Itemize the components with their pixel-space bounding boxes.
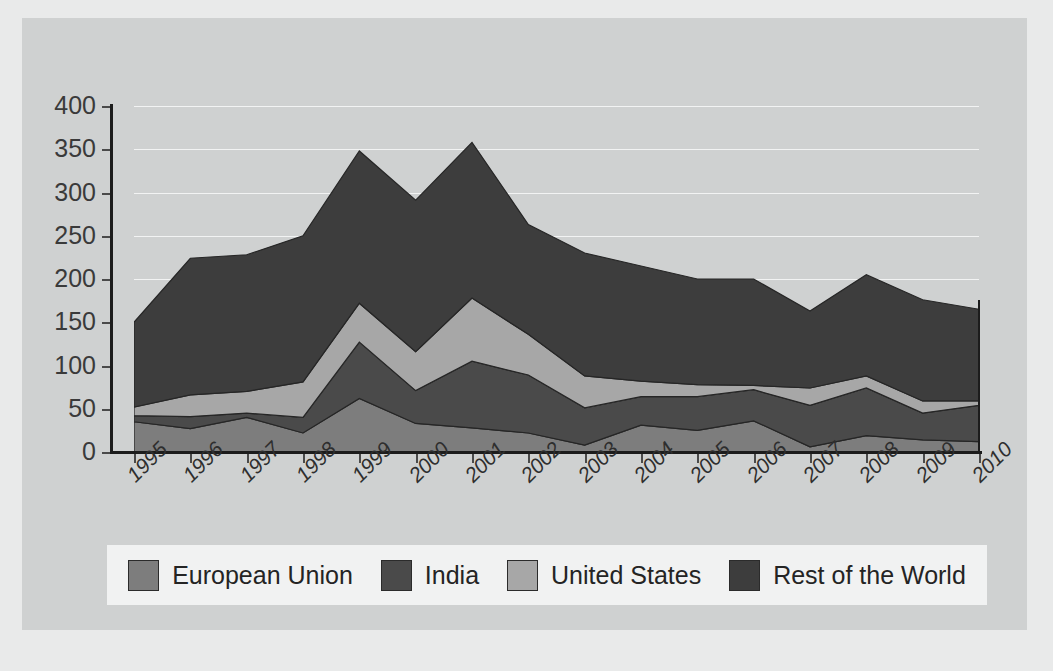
y-axis-tick-label: 100 [54,353,96,378]
y-axis-tick [102,322,110,324]
legend-color-swatch [381,560,412,591]
legend-color-swatch [128,560,159,591]
legend-label: European Union [172,561,353,590]
y-axis-tick-label: 400 [54,93,96,118]
legend-label: India [425,561,479,590]
y-axis-tick-label: 250 [54,223,96,248]
y-axis-tick [102,149,110,151]
y-axis-labels: 400350300250200150100500 [22,18,96,478]
y-axis-tick [102,366,110,368]
y-axis-tick-label: 50 [68,396,96,421]
y-axis-tick-label: 300 [54,180,96,205]
y-axis-line [110,104,113,454]
legend-item[interactable]: United States [507,560,701,591]
legend-item[interactable]: European Union [128,560,353,591]
plot-right-border [978,300,980,452]
stacked-area-series [134,106,979,452]
y-axis-tick [102,452,110,454]
y-axis-tick [102,279,110,281]
y-axis-tick [102,193,110,195]
chart-page: 400350300250200150100500 199519961997199… [0,0,1053,671]
legend-color-swatch [729,560,760,591]
y-axis-tick-label: 150 [54,309,96,334]
legend-item[interactable]: Rest of the World [729,560,966,591]
y-axis-tick-label: 200 [54,266,96,291]
y-axis-tick [102,236,110,238]
y-axis-tick [102,106,110,108]
chart-legend: European UnionIndiaUnited StatesRest of … [107,545,987,605]
y-axis-tick [102,409,110,411]
figure-panel: 400350300250200150100500 199519961997199… [22,18,1027,630]
y-axis-tick-label: 350 [54,136,96,161]
plot-area [134,106,979,452]
y-axis-tick-label: 0 [82,439,96,464]
legend-color-swatch [507,560,538,591]
legend-label: Rest of the World [773,561,966,590]
plot-region [112,86,1002,456]
legend-label: United States [551,561,701,590]
legend-item[interactable]: India [381,560,479,591]
